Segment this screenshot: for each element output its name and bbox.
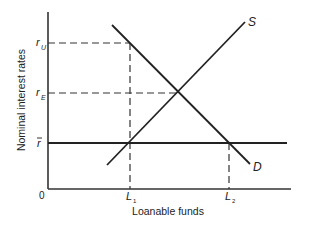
l2-label: L 2 (225, 190, 236, 204)
y-axis-title: Nominal interest rates (15, 49, 27, 151)
x-axis-title: Loanable funds (132, 205, 204, 217)
l1-main: L (126, 190, 132, 202)
rbar-main: r (37, 137, 42, 149)
ru-label: r U (36, 36, 47, 51)
ru-sub: U (41, 44, 47, 51)
l2-sub: 2 (232, 198, 236, 204)
supply-label: S (248, 15, 256, 29)
origin-label: 0 (39, 190, 45, 201)
l1-label: L 1 (126, 190, 137, 204)
l1-sub: 1 (133, 198, 137, 204)
loanable-funds-diagram: S D r U r E r 0 L 1 L 2 Loanable funds N… (0, 0, 324, 228)
l2-main: L (225, 190, 231, 202)
rbar-label: r (37, 137, 42, 149)
demand-label: D (253, 160, 262, 174)
re-label: r E (36, 86, 46, 101)
re-sub: E (41, 94, 46, 101)
